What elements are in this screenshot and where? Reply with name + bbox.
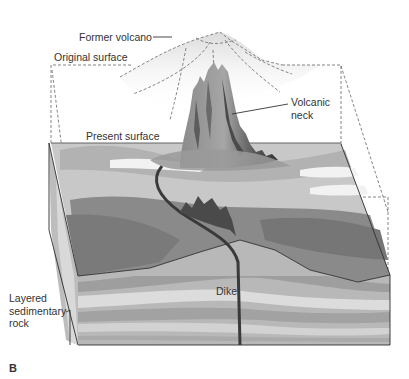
label-former-volcano: Former volcano (79, 31, 152, 44)
label-volcanic-neck-line1: Volcanic (291, 96, 330, 109)
label-original-surface: Original surface (54, 51, 128, 64)
label-layered-sedimentary-rock: Layered sedimentary rock (9, 292, 66, 330)
label-layered-line2: sedimentary (9, 305, 66, 318)
panel-letter: B (9, 362, 17, 374)
label-layered-line3: rock (9, 317, 66, 330)
label-dike: Dike (216, 285, 237, 298)
label-volcanic-neck-line2: neck (291, 109, 330, 122)
label-volcanic-neck: Volcanic neck (291, 96, 330, 121)
label-layered-line1: Layered (9, 292, 66, 305)
label-present-surface: Present surface (86, 130, 160, 143)
